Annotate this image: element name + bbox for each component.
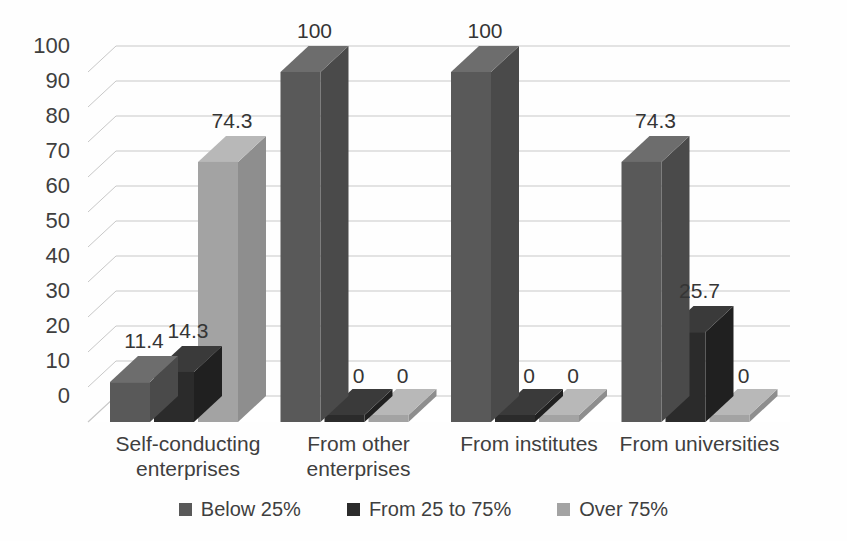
bar-value-label: 100 bbox=[275, 20, 355, 41]
chart-legend: Below 25%From 25 to 75%Over 75% bbox=[0, 492, 847, 526]
legend-label: From 25 to 75% bbox=[369, 499, 511, 519]
bar-value-label: 74.3 bbox=[616, 110, 696, 131]
legend-swatch-icon bbox=[179, 503, 192, 516]
bar-value-label: 74.3 bbox=[192, 110, 272, 131]
bar-value-label: 0 bbox=[489, 365, 569, 386]
bar-value-label: 11.4 bbox=[104, 330, 184, 351]
bar-value-label: 25.7 bbox=[660, 280, 740, 301]
legend-label: Below 25% bbox=[201, 499, 301, 519]
legend-item[interactable]: Below 25% bbox=[179, 499, 301, 519]
bar-value-label: 0 bbox=[319, 365, 399, 386]
chart-container: 1009080706050403020100 Self-conductingen… bbox=[0, 0, 847, 541]
legend-label: Over 75% bbox=[579, 499, 668, 519]
bar-value-label: 100 bbox=[445, 20, 525, 41]
legend-swatch-icon bbox=[347, 503, 360, 516]
data-labels: 74.300014.30025.711.410010074.3 bbox=[0, 0, 847, 541]
legend-item[interactable]: Over 75% bbox=[557, 499, 668, 519]
legend-item[interactable]: From 25 to 75% bbox=[347, 499, 511, 519]
bar-value-label: 0 bbox=[704, 365, 784, 386]
legend-swatch-icon bbox=[557, 503, 570, 516]
